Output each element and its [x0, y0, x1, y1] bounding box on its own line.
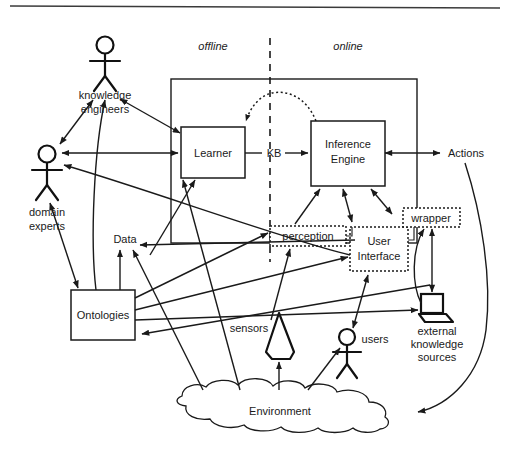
knowledge-engineers-label-line1: knowledge: [79, 89, 132, 101]
external-knowledge-sources-laptop[interactable]: [419, 294, 453, 322]
users-head: [339, 329, 355, 345]
laptop-base: [419, 314, 453, 322]
actions-label: Actions: [448, 147, 485, 159]
environment-label: Environment: [249, 405, 311, 417]
diagram-canvas: offline online Learner Inference Engine …: [0, 0, 510, 457]
users-leg-right: [347, 364, 357, 378]
sensors-cone-shape: [266, 313, 294, 359]
laptop-screen: [421, 294, 443, 313]
domain-experts-label-line1: domain: [29, 206, 65, 218]
domain-experts-label-line2: experts: [29, 220, 66, 232]
users-figure[interactable]: [333, 329, 361, 378]
online-label: online: [333, 40, 362, 52]
user-interface-inference-engine-arrow: [343, 189, 352, 222]
perception-inference-engine-arrow: [295, 189, 320, 224]
inference-engine-label-line2: Engine: [331, 153, 365, 165]
ontologies-user-interface-arrow: [135, 257, 348, 310]
user-interface-box[interactable]: [350, 227, 408, 271]
users-user-interface-arrow: [353, 275, 368, 328]
external-sources-label-line3: sources: [418, 351, 457, 363]
offline-label: offline: [198, 40, 227, 52]
user-interface-wrapper-connector: [408, 227, 414, 240]
inference-engine-label-line1: Inference: [325, 138, 371, 150]
wrapper-inference-engine-arrow: [371, 189, 392, 214]
knowledge-engineers-label-line2: engineers: [81, 103, 130, 115]
users-label: users: [362, 333, 389, 345]
wrapper-label: wrapper: [410, 212, 451, 224]
kb-label: KB: [267, 147, 282, 159]
ontologies-knowledge-engineers-curve: [93, 100, 105, 290]
external-sources-wrapper-curve: [414, 229, 424, 303]
sensors-label: sensors: [230, 322, 269, 334]
environment-learner-arrow: [183, 180, 240, 390]
domain-experts-figure[interactable]: [32, 146, 62, 201]
knowledge-engineers-figure[interactable]: [90, 37, 120, 92]
domain-experts-leg-right: [47, 185, 58, 200]
perception-label: perception: [282, 230, 333, 242]
knowledge-engineers-head: [97, 37, 114, 54]
ontologies-label: Ontologies: [77, 309, 130, 321]
top-divider-rule: [10, 6, 500, 8]
data-label: Data: [113, 233, 137, 245]
users-leg-left: [337, 364, 347, 378]
external-sources-label-line1: external: [417, 325, 456, 337]
user-interface-label-line2: Interface: [358, 250, 401, 262]
external-sources-label-line2: knowledge: [411, 338, 464, 350]
external-sources-ontologies-arrow: [142, 285, 430, 334]
kb-feedback-dotted-arc: [246, 92, 316, 121]
sensors-cone[interactable]: [266, 313, 294, 359]
environment-users-arrow: [308, 348, 340, 390]
domain-experts-head: [39, 146, 56, 163]
user-interface-label-line1: User: [367, 235, 391, 247]
architecture-diagram: offline online Learner Inference Engine …: [0, 0, 510, 457]
domain-experts-leg-left: [36, 185, 47, 200]
learner-label: Learner: [194, 147, 232, 159]
actions-environment-curve: [418, 163, 488, 412]
